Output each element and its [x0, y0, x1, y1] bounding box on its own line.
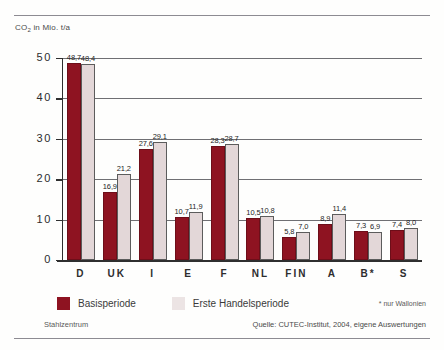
bar-base[interactable] — [246, 218, 260, 260]
x-category-label: B* — [350, 268, 386, 279]
bar-group: 8,911,4 — [318, 58, 346, 260]
bar-trade[interactable] — [368, 232, 382, 260]
bar-base[interactable] — [175, 217, 189, 260]
bar-base[interactable] — [103, 192, 117, 260]
bars-container: 48,748,416,921,227,629,110,711,928,328,7… — [63, 58, 422, 260]
bar-base[interactable] — [282, 237, 296, 260]
bar-trade[interactable] — [404, 228, 418, 260]
x-category-label: F — [207, 268, 243, 279]
x-axis-line — [57, 260, 422, 262]
y-tick-value: 30 — [37, 132, 52, 144]
bar-value-label: 7,0 — [292, 222, 314, 231]
bar-group: 27,629,1 — [139, 58, 167, 260]
bar-value-label: 28,7 — [221, 134, 243, 143]
bar-base[interactable] — [318, 224, 332, 260]
y-tick-mark — [56, 139, 62, 140]
legend-label-trade: Erste Handelsperiode — [193, 298, 289, 309]
bar-base[interactable] — [354, 231, 368, 260]
y-tick-mark — [56, 179, 62, 180]
x-category-label: D — [63, 268, 99, 279]
x-category-label: E — [171, 268, 207, 279]
legend-item-basisperiode[interactable]: Basisperiode — [57, 297, 136, 310]
y-tick-value: 50 — [37, 51, 52, 63]
bar-trade[interactable] — [117, 174, 131, 260]
y-tick-value: 20 — [37, 172, 52, 184]
bar-base[interactable] — [139, 149, 153, 261]
y-tick-value: 40 — [37, 91, 52, 103]
legend-swatch-icon-base — [57, 297, 70, 310]
x-category-label: NL — [243, 268, 279, 279]
legend-item-handelsperiode[interactable]: Erste Handelsperiode — [172, 297, 289, 310]
bar-trade[interactable] — [260, 216, 274, 260]
y-tick-label: 30 — [18, 132, 52, 146]
y-tick-label: 40 — [18, 91, 52, 105]
bar-base[interactable] — [211, 146, 225, 260]
x-category-label: A — [314, 268, 350, 279]
bar-value-label: 29,1 — [149, 132, 171, 141]
x-category-label: UK — [99, 268, 135, 279]
bar-trade[interactable] — [189, 212, 203, 260]
x-category-label: I — [135, 268, 171, 279]
bar-value-label: 10,8 — [256, 206, 278, 215]
y-tick-mark — [56, 98, 62, 99]
bar-group: 16,921,2 — [103, 58, 131, 260]
bar-value-label: 6,9 — [364, 222, 386, 231]
bar-value-label: 48,4 — [77, 54, 99, 63]
footnote: * nur Wallonien — [379, 300, 426, 307]
bar-group: 10,711,9 — [175, 58, 203, 260]
source-right: Quelle: CUTEC-Institut, 2004, eigene Aus… — [253, 320, 426, 329]
bar-trade[interactable] — [332, 214, 346, 260]
legend-swatch-icon-trade — [172, 297, 185, 310]
legend-label-base: Basisperiode — [78, 298, 136, 309]
y-tick-mark — [56, 260, 62, 261]
bar-group: 48,748,4 — [67, 58, 95, 260]
bar-group: 28,328,7 — [211, 58, 239, 260]
x-category-label: FIN — [278, 268, 314, 279]
bar-trade[interactable] — [225, 144, 239, 260]
bottom-divider — [14, 338, 430, 339]
legend: Basisperiode Erste Handelsperiode — [57, 297, 325, 310]
chart-figure: CO2 in Mio. t/a 01020304050 48,748,416,9… — [0, 0, 444, 350]
y-tick-label: 20 — [18, 172, 52, 186]
bar-group: 5,87,0 — [282, 58, 310, 260]
x-category-label: S — [386, 268, 422, 279]
y-tick-label: 10 — [18, 213, 52, 227]
y-tick-mark — [56, 58, 62, 59]
bar-trade[interactable] — [81, 64, 95, 260]
y-tick-value: 10 — [37, 213, 52, 225]
bar-group: 7,36,9 — [354, 58, 382, 260]
bar-group: 7,48,0 — [390, 58, 418, 260]
y-tick-value: 0 — [44, 253, 52, 265]
y-tick-label: 50 — [18, 51, 52, 65]
bar-base[interactable] — [390, 230, 404, 260]
bar-trade[interactable] — [153, 142, 167, 260]
y-tick-label: 0 — [18, 253, 52, 267]
bar-trade[interactable] — [296, 232, 310, 260]
bar-value-label: 8,0 — [400, 218, 422, 227]
bar-group: 10,510,8 — [246, 58, 274, 260]
bar-base[interactable] — [67, 63, 81, 260]
bar-value-label: 11,4 — [328, 204, 350, 213]
bar-value-label: 21,2 — [113, 164, 135, 173]
source-left: Stahlzentrum — [44, 320, 88, 329]
bar-value-label: 11,9 — [185, 202, 207, 211]
y-tick-mark — [56, 220, 62, 221]
